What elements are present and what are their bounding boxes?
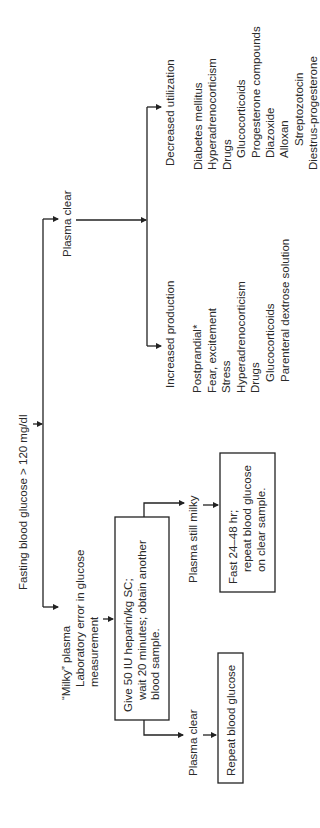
- increased-production-item: Hyperadrenocorticism: [235, 281, 247, 393]
- increased-production-item: Parenteral dextrose solution: [279, 239, 291, 382]
- increased-production-heading: Increased production: [164, 281, 176, 388]
- arrow-to-now-clear: [144, 720, 183, 735]
- decreased-utilization-item: Diabetes mellitus: [192, 82, 204, 170]
- decreased-utilization-item: Progesterone compounds: [250, 26, 262, 158]
- increased-production-list: Postprandial*Fear, excitementStressHyper…: [191, 239, 291, 393]
- decreased-utilization-list: Diabetes mellitusHyperadrenocorticismDru…: [192, 26, 319, 170]
- decreased-utilization-item: Alloxan: [278, 120, 290, 158]
- milky-plasma-line: Laboratory error in glucose: [74, 550, 86, 687]
- repeat-box-text: Repeat blood glucose: [225, 665, 237, 776]
- fast-box-text: Fast 24–48 hr;repeat blood glucoseon cle…: [227, 465, 267, 584]
- heparin-box-text: Give 50 IU heparin/kg SC;wait 20 minutes…: [122, 540, 161, 712]
- decreased-utilization-item: Diazoxide: [264, 108, 276, 159]
- fast-box-line: on clear sample.: [255, 488, 267, 572]
- heparin-box-line: Give 50 IU heparin/kg SC;: [122, 578, 134, 712]
- milky-plasma-line: “Milky” plasma: [60, 625, 72, 700]
- increased-production-item: Glucocorticoids: [264, 303, 276, 382]
- increased-production-item: Drugs: [249, 362, 261, 393]
- fast-box-line: repeat blood glucose: [241, 465, 253, 572]
- decreased-utilization-item: Glucocorticoids: [235, 79, 247, 158]
- repeat-box-line: Repeat blood glucose: [225, 665, 237, 776]
- milky-plasma-line: measurement: [88, 616, 100, 687]
- increased-production-item: Stress: [220, 360, 232, 393]
- increased-production-item: Fear, excitement: [206, 307, 218, 393]
- heparin-box-line: blood sample.: [149, 628, 161, 700]
- decreased-utilization-heading: Decreased utilization: [164, 59, 176, 166]
- plasma-clear-label: Plasma clear: [61, 190, 73, 257]
- increased-production-item: Postprandial*: [191, 324, 203, 393]
- fast-box-line: Fast 24–48 hr;: [227, 510, 239, 584]
- plasma-clear-after-heparin-label: Plasma clear: [187, 709, 199, 776]
- decreased-utilization-item: Hyperadrenocorticism: [206, 58, 218, 170]
- decreased-utilization-item: Diestrus-progesterone: [307, 56, 319, 170]
- decreased-utilization-item: Drugs: [221, 139, 233, 170]
- milky-plasma-text: “Milky” plasmaLaboratory error in glucos…: [60, 550, 100, 700]
- arrow-to-still-milky: [144, 503, 184, 517]
- heparin-box-line: wait 20 minutes; obtain another: [136, 540, 148, 701]
- decreased-utilization-item: Streptozotocin: [293, 72, 305, 146]
- glucose-flowchart: Fasting blood glucose > 120 mg/dl Plasma…: [0, 0, 320, 828]
- plasma-still-milky-label: Plasma still milky: [187, 495, 199, 583]
- root-label: Fasting blood glucose > 120 mg/dl: [17, 415, 29, 591]
